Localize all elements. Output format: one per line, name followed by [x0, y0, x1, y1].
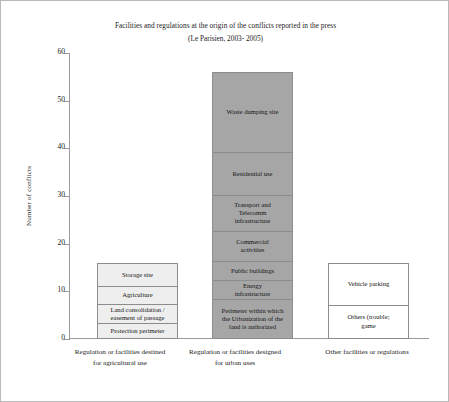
segment-label: Waste dumping site — [227, 108, 279, 116]
bar-segment-vehicle-parking[interactable]: Vehicle parking — [329, 264, 408, 306]
x-category-line2: for urban uses — [173, 358, 297, 369]
segment-label-line3: infrastructure — [235, 217, 271, 224]
y-tick-label: 30 — [58, 190, 66, 199]
y-tick-label: 0 — [61, 333, 65, 342]
chart-subtitle: (Le Parisien, 2003- 2005) — [1, 32, 449, 45]
segment-label: Others (trouble;game — [348, 313, 390, 330]
segment-label: Commercialactivities — [236, 238, 269, 255]
segment-label-line2: the Urbanization of the — [222, 315, 283, 322]
x-category-line2: for agricultural use — [59, 358, 181, 369]
title-block: Facilities and regulations at the origin… — [1, 19, 449, 45]
segment-label-line1: Commercial — [236, 238, 269, 245]
bar-segment-waste-dumping-site[interactable]: Waste dumping site — [213, 73, 292, 153]
x-category-line1: Regulation or facilities designed — [173, 347, 297, 358]
bar-segment-protection-perimeter[interactable]: Protection perimeter — [98, 324, 177, 338]
bar-stack-urban[interactable]: Waste dumping site Residential use Trans… — [212, 72, 293, 339]
x-category-line1: Other facilities or regulations — [297, 347, 437, 358]
segment-label: Land consolidation /easement of passage — [110, 306, 164, 323]
bar-stack-other[interactable]: Vehicle parking Others (trouble;game — [328, 263, 409, 339]
segment-label-line1: Perimeter within which — [222, 307, 284, 314]
x-category-label-urban: Regulation or facilities designed for ur… — [173, 347, 297, 369]
bar-segment-others-trouble-game[interactable]: Others (trouble;game — [329, 306, 408, 338]
segment-label-line2: activities — [241, 246, 265, 253]
segment-label: Vehicle parking — [348, 280, 390, 288]
segment-label-line2: Telecomm — [239, 209, 267, 216]
bar-segment-transport-telecom[interactable]: Transport andTelecomminfrastructure — [213, 196, 292, 232]
bar-stack-agricultural[interactable]: Storage site Agriculture Land consolidat… — [97, 263, 178, 339]
x-category-label-other: Other facilities or regulations — [297, 347, 437, 358]
segment-label-line2: game — [361, 322, 375, 329]
bar-segment-agriculture[interactable]: Agriculture — [98, 287, 177, 306]
segment-label-line1: Energy — [243, 282, 262, 289]
segment-label: Perimeter within whichthe Urbanization o… — [222, 307, 284, 332]
y-tick-label: 60 — [58, 47, 66, 56]
chart-title: Facilities and regulations at the origin… — [1, 19, 449, 32]
y-tick-label: 20 — [58, 238, 66, 247]
bar-segment-public-buildings[interactable]: Public buildings — [213, 262, 292, 281]
segment-label: Transport andTelecomminfrastructure — [234, 201, 271, 226]
segment-label-line2: infrastructure — [235, 290, 271, 297]
segment-label: Storage site — [122, 271, 153, 279]
segment-label: Residential use — [232, 170, 272, 178]
segment-label-line1: Transport and — [234, 201, 271, 208]
x-category-line1: Regulation or facilities destined — [59, 347, 181, 358]
bar-segment-storage-site[interactable]: Storage site — [98, 264, 177, 287]
segment-label: Public buildings — [231, 267, 274, 275]
chart-figure: Facilities and regulations at the origin… — [0, 0, 449, 402]
plot-area: 60 50 40 30 20 10 0 Storage sit — [69, 53, 429, 339]
bar-segment-urbanization-perimeter[interactable]: Perimeter within whichthe Urbanization o… — [213, 300, 292, 338]
segment-label: Energyinfrastructure — [235, 282, 271, 299]
y-tick-label: 50 — [58, 95, 66, 104]
y-tick-label: 10 — [58, 285, 66, 294]
segment-label-line2: easement of passage — [111, 314, 165, 321]
segment-label-line1: Others (trouble; — [348, 313, 390, 320]
y-tick-label: 40 — [58, 142, 66, 151]
x-category-label-agricultural: Regulation or facilities destined for ag… — [59, 347, 181, 369]
bar-segment-commercial-activities[interactable]: Commercialactivities — [213, 232, 292, 263]
y-axis-title: Number of conflicts — [25, 53, 37, 339]
bar-segment-land-consolidation[interactable]: Land consolidation /easement of passage — [98, 305, 177, 324]
bar-segment-residential-use[interactable]: Residential use — [213, 153, 292, 196]
segment-label-line3: land is authorized — [229, 323, 276, 330]
bar-segment-energy-infrastructure[interactable]: Energyinfrastructure — [213, 281, 292, 300]
segment-label: Agriculture — [122, 291, 152, 299]
segment-label: Protection perimeter — [110, 327, 164, 335]
segment-label-line1: Land consolidation / — [110, 306, 164, 313]
